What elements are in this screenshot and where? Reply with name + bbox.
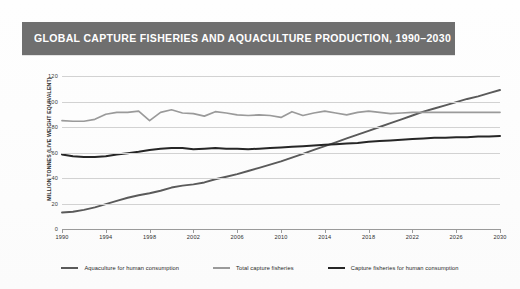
x-tick-1998: 1998 xyxy=(130,234,170,240)
x-tick-mark-2022 xyxy=(412,229,413,233)
y-tick-100: 100 xyxy=(32,99,58,105)
y-tick-20: 20 xyxy=(32,201,58,207)
x-tick-mark-1990 xyxy=(62,229,63,233)
gridline-40 xyxy=(62,178,500,179)
x-tick-2010: 2010 xyxy=(261,234,301,240)
x-tick-2026: 2026 xyxy=(436,234,476,240)
y-tick-40: 40 xyxy=(32,175,58,181)
legend-label-0: Aquaculture for human consumption xyxy=(84,265,179,271)
gridline-60 xyxy=(62,153,500,154)
x-tick-2014: 2014 xyxy=(305,234,345,240)
x-tick-1990: 1990 xyxy=(42,234,82,240)
gridline-100 xyxy=(62,102,500,103)
chart-container: MILLION TONNES (LIVE WEIGHT EQUIVALENT) … xyxy=(0,60,520,250)
legend-item-1[interactable]: Total capture fisheries xyxy=(213,265,294,271)
plot-area xyxy=(62,76,500,229)
x-tick-mark-2002 xyxy=(193,229,194,233)
x-tick-mark-2014 xyxy=(325,229,326,233)
legend-swatch-icon-1 xyxy=(213,267,230,269)
x-tick-2002: 2002 xyxy=(173,234,213,240)
series-line-0 xyxy=(62,90,500,212)
y-tick-80: 80 xyxy=(32,124,58,130)
x-tick-mark-1994 xyxy=(106,229,107,233)
x-tick-mark-2026 xyxy=(456,229,457,233)
x-tick-2006: 2006 xyxy=(217,234,257,240)
x-tick-2030: 2030 xyxy=(480,234,520,240)
x-axis-tick-labels: 1990199419982002200620102014201820222026… xyxy=(62,234,500,248)
gridline-20 xyxy=(62,204,500,205)
page-title: GLOBAL CAPTURE FISHERIES AND AQUACULTURE… xyxy=(34,22,424,55)
series-line-2 xyxy=(62,136,500,157)
x-tick-mark-2018 xyxy=(369,229,370,233)
x-tick-2018: 2018 xyxy=(349,234,389,240)
y-tick-0: 0 xyxy=(32,226,58,232)
legend-item-0[interactable]: Aquaculture for human consumption xyxy=(61,265,179,271)
legend-swatch-icon-0 xyxy=(61,267,78,269)
x-tick-mark-2006 xyxy=(237,229,238,233)
x-tick-1994: 1994 xyxy=(86,234,126,240)
x-tick-mark-2010 xyxy=(281,229,282,233)
legend-label-1: Total capture fisheries xyxy=(236,265,294,271)
chart-title-banner: GLOBAL CAPTURE FISHERIES AND AQUACULTURE… xyxy=(22,22,455,55)
y-tick-120: 120 xyxy=(32,73,58,79)
gridline-120 xyxy=(62,76,500,77)
x-tick-2022: 2022 xyxy=(392,234,432,240)
legend-swatch-icon-2 xyxy=(328,267,345,269)
legend-item-2[interactable]: Capture fisheries for human consumption xyxy=(328,265,459,271)
series-line-1 xyxy=(62,110,500,121)
chart-legend: Aquaculture for human consumptionTotal c… xyxy=(0,258,520,278)
y-tick-60: 60 xyxy=(32,150,58,156)
y-axis-tick-labels: 120100806040200 xyxy=(26,76,58,229)
legend-label-2: Capture fisheries for human consumption xyxy=(351,265,459,271)
gridline-80 xyxy=(62,127,500,128)
x-tick-mark-2030 xyxy=(500,229,501,233)
x-tick-mark-1998 xyxy=(150,229,151,233)
